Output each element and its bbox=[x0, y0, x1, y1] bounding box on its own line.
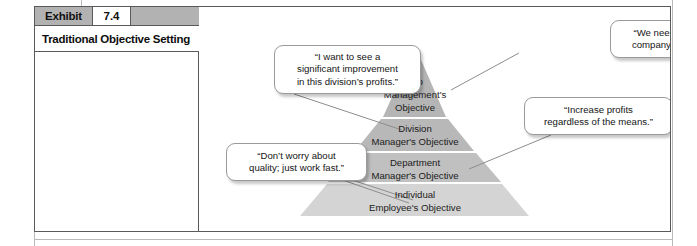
exhibit-header-filler bbox=[131, 7, 199, 25]
pyramid-label-individual-employee-line1: Individual bbox=[395, 189, 436, 200]
callout-division-manager: “I want to see a significant improvement… bbox=[274, 45, 421, 94]
callout-department-manager-text: “Increase profits regardless of the mean… bbox=[544, 104, 653, 129]
exhibit-page: Exhibit 7.4 Traditional Objective Settin… bbox=[0, 0, 697, 246]
exhibit-number: 7.4 bbox=[93, 7, 131, 25]
exhibit-title-band: Traditional Objective Setting bbox=[35, 26, 199, 52]
page-trim-line-bottom bbox=[34, 239, 672, 240]
figure-area: Top Management's Objective Division Mana… bbox=[199, 7, 670, 231]
pyramid-label-department-manager-line1: Department bbox=[390, 157, 440, 168]
callout-individual-employee: “Don’t worry about quality; just work fa… bbox=[226, 143, 367, 181]
exhibit-title: Traditional Objective Setting bbox=[35, 33, 190, 45]
leader-line-department-manager bbox=[469, 135, 551, 169]
pyramid-label-division-manager-line1: Division bbox=[398, 123, 432, 134]
exhibit-frame: Exhibit 7.4 Traditional Objective Settin… bbox=[34, 6, 671, 232]
exhibit-header-strip: Exhibit 7.4 bbox=[35, 7, 199, 26]
leader-line-top-management bbox=[451, 53, 519, 90]
callout-top-management: “We need to improve the company’s perfor… bbox=[610, 20, 670, 58]
pyramid-label-top-management-line3: Objective bbox=[395, 102, 435, 113]
pyramid-label-division-manager-line2: Manager's Objective bbox=[371, 136, 458, 147]
callout-top-management-text: “We need to improve the company’s perfor… bbox=[632, 27, 670, 52]
pyramid-label-department-manager-line2: Manager's Objective bbox=[371, 170, 458, 181]
page-trim-line-bottom-left bbox=[34, 232, 35, 246]
page-trim-line-right bbox=[672, 0, 673, 246]
callout-individual-employee-text: “Don’t worry about quality; just work fa… bbox=[249, 150, 344, 175]
exhibit-caption-column: Exhibit 7.4 Traditional Objective Settin… bbox=[35, 7, 199, 231]
exhibit-label: Exhibit bbox=[35, 7, 93, 25]
pyramid-label-individual-employee-line2: Employee's Objective bbox=[369, 202, 461, 213]
callout-division-manager-text: “I want to see a significant improvement… bbox=[297, 51, 398, 88]
callout-department-manager: “Increase profits regardless of the mean… bbox=[524, 97, 670, 135]
